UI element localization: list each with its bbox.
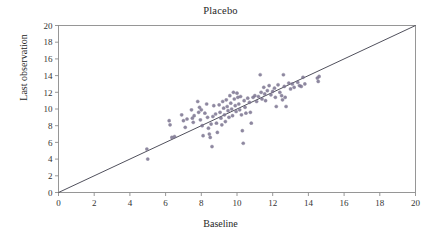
y-tick-label: 16 xyxy=(44,54,54,64)
y-tick-label: 2 xyxy=(48,171,53,181)
scatter-point xyxy=(257,95,260,98)
x-tick-label: 8 xyxy=(199,198,204,208)
scatter-point xyxy=(253,94,256,97)
scatter-point xyxy=(318,75,321,78)
scatter-point xyxy=(216,131,219,134)
scatter-point xyxy=(289,87,292,90)
scatter-point xyxy=(201,124,204,127)
scatter-point xyxy=(230,107,233,110)
scatter-point xyxy=(219,117,222,120)
scatter-point xyxy=(287,82,290,85)
scatter-point xyxy=(263,92,266,95)
y-tick-label: 8 xyxy=(48,121,53,131)
scatter-point xyxy=(233,97,236,100)
scatter-point xyxy=(239,95,242,98)
identity-reference-line xyxy=(59,26,416,193)
scatter-point xyxy=(237,102,240,105)
scatter-point xyxy=(192,121,195,124)
scatter-point xyxy=(206,116,209,119)
scatter-point xyxy=(301,76,304,79)
scatter-point xyxy=(226,105,229,108)
scatter-point xyxy=(209,136,212,139)
scatter-point xyxy=(207,127,210,130)
scatter-point xyxy=(241,129,244,132)
scatter-point xyxy=(271,90,274,93)
scatter-point xyxy=(220,123,223,126)
scatter-point xyxy=(249,111,252,114)
scatter-point xyxy=(268,84,271,87)
scatter-point xyxy=(210,145,213,148)
scatter-point xyxy=(146,158,149,161)
scatter-point xyxy=(243,106,246,109)
scatter-point xyxy=(240,113,243,116)
scatter-point xyxy=(182,119,185,122)
y-tick-label: 18 xyxy=(44,37,54,47)
y-tick-label: 6 xyxy=(48,138,53,148)
x-tick-label: 0 xyxy=(56,198,61,208)
scatter-point xyxy=(296,81,299,84)
scatter-point xyxy=(284,105,287,108)
scatter-point xyxy=(215,122,218,125)
y-axis-ticks: 02468101214161820 xyxy=(44,21,59,198)
scatter-point xyxy=(205,102,208,105)
scatter-point xyxy=(225,98,228,101)
x-tick-label: 16 xyxy=(340,198,350,208)
scatter-point xyxy=(231,114,234,117)
scatter-point xyxy=(243,99,246,102)
scatter-point xyxy=(168,123,171,126)
scatter-point xyxy=(203,112,206,115)
y-tick-label: 4 xyxy=(48,154,53,164)
scatter-point xyxy=(300,85,303,88)
scatter-point xyxy=(275,105,278,108)
scatter-point xyxy=(283,85,286,88)
scatter-point xyxy=(229,102,232,105)
scatter-point xyxy=(211,115,214,118)
scatter-point xyxy=(303,82,306,85)
scatter-point xyxy=(269,93,272,96)
scatter-point xyxy=(232,91,235,94)
plot-canvas: 02468101214161820 02468101214161820 xyxy=(0,0,441,238)
scatter-point xyxy=(273,87,276,90)
scatter-point xyxy=(259,91,262,94)
scatter-point xyxy=(278,91,281,94)
x-tick-label: 4 xyxy=(128,198,133,208)
scatter-point xyxy=(197,111,200,114)
scatter-point xyxy=(234,104,237,107)
x-tick-label: 10 xyxy=(233,198,243,208)
scatter-point xyxy=(246,97,249,100)
x-tick-label: 18 xyxy=(375,198,385,208)
scatter-point xyxy=(248,101,251,104)
scatter-point xyxy=(223,113,226,116)
scatter-point xyxy=(212,104,215,107)
scatter-point xyxy=(250,122,253,125)
scatter-point xyxy=(226,109,229,112)
scatter-point xyxy=(221,100,224,103)
x-tick-label: 6 xyxy=(163,198,168,208)
scatter-point xyxy=(200,108,203,111)
scatter-point xyxy=(218,103,221,106)
y-tick-label: 20 xyxy=(44,21,54,31)
scatter-point xyxy=(244,112,247,115)
scatter-point xyxy=(238,108,241,111)
scatter-point xyxy=(276,83,279,86)
x-tick-label: 12 xyxy=(268,198,277,208)
scatter-point xyxy=(259,73,262,76)
scatter-point xyxy=(235,92,238,95)
scatter-point xyxy=(293,86,296,89)
scatter-point xyxy=(173,135,176,138)
scatter-plot-figure: Placebo Last observation Baseline 024681… xyxy=(0,0,441,238)
scatter-point xyxy=(180,113,183,116)
scatter-point xyxy=(262,86,265,89)
y-tick-label: 14 xyxy=(44,71,54,81)
x-axis-ticks: 02468101214161820 xyxy=(56,193,420,208)
scatter-point xyxy=(210,122,213,125)
scatter-point xyxy=(282,73,285,76)
scatter-point xyxy=(196,100,199,103)
scatter-point xyxy=(224,120,227,123)
scatter-point xyxy=(255,100,258,103)
scatter-point xyxy=(208,132,211,135)
scatter-point xyxy=(274,96,277,99)
scatter-point xyxy=(260,97,263,100)
scatter-point xyxy=(168,119,171,122)
scatter-point xyxy=(266,89,269,92)
